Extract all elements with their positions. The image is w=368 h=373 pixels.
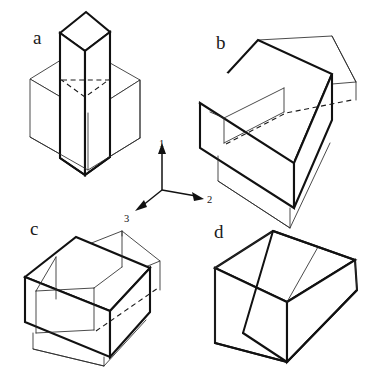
axis-3-label: 3	[124, 213, 129, 224]
figure-canvas: a	[0, 0, 368, 373]
axis-2-label: 2	[207, 194, 212, 205]
prism-front-left-face	[60, 33, 85, 175]
axis-triad: 1 2 3	[124, 138, 212, 224]
label-b: b	[216, 32, 226, 53]
object-d-group: d	[214, 221, 357, 362]
axis-3-arrowhead	[135, 200, 147, 211]
label-a: a	[33, 27, 42, 48]
axis-2-line	[162, 190, 196, 196]
figure-svg: a	[0, 0, 368, 373]
object-a-group: a	[30, 12, 140, 175]
axis-1-label: 1	[159, 138, 164, 149]
object-a-bold-prism	[60, 12, 110, 175]
prism-front-right-face	[85, 32, 110, 175]
object-c-group: c	[25, 218, 160, 366]
object-b-group: b	[200, 32, 356, 228]
ghost-bottom-edge-c	[33, 349, 104, 366]
axis-2-arrowhead	[192, 192, 204, 201]
label-c: c	[30, 218, 38, 239]
object-b-bold-base	[200, 40, 332, 208]
label-d: d	[214, 221, 224, 242]
